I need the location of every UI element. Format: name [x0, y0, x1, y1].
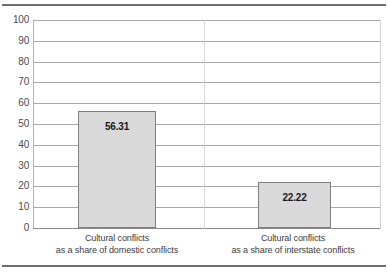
gridline-60 — [33, 103, 380, 104]
gridline-70 — [33, 82, 380, 83]
bar-value-label-1: 22.22 — [259, 192, 330, 203]
y-tick-label-90: 90 — [1, 36, 29, 46]
top-divider-rule — [2, 4, 386, 6]
gridline-0 — [33, 228, 380, 229]
bar-value-label-0: 56.31 — [79, 121, 155, 132]
y-tick-label-50: 50 — [1, 119, 29, 129]
bottom-divider-rule — [2, 265, 386, 267]
gridline-100 — [33, 20, 380, 21]
y-tick-label-40: 40 — [1, 140, 29, 150]
y-tick-label-0: 0 — [1, 223, 29, 233]
y-tick-label-10: 10 — [1, 202, 29, 212]
y-tick-label-100: 100 — [1, 15, 29, 25]
category-label-0-line-1: Cultural conflicts — [32, 233, 202, 245]
gridline-90 — [33, 41, 380, 42]
plot-area: 56.3122.22 — [33, 20, 380, 228]
gridline-80 — [33, 62, 380, 63]
y-tick-label-20: 20 — [1, 181, 29, 191]
y-tick-label-80: 80 — [1, 57, 29, 67]
bar-chart-figure: 1009080706050403020100 56.3122.22 Cultur… — [0, 0, 388, 275]
category-label-1-line-1: Cultural conflicts — [206, 233, 380, 245]
y-tick-label-60: 60 — [1, 98, 29, 108]
category-label-1: Cultural conflictsas a share of intersta… — [206, 233, 380, 256]
category-label-0: Cultural conflictsas a share of domestic… — [32, 233, 202, 256]
category-divider-line — [204, 20, 205, 229]
bar-0: 56.31 — [78, 111, 156, 228]
bar-1: 22.22 — [258, 182, 331, 228]
plot-right-edge — [380, 20, 381, 229]
y-tick-label-30: 30 — [1, 161, 29, 171]
y-axis-tick-labels: 1009080706050403020100 — [0, 20, 29, 228]
category-label-1-line-2: as a share of interstate conflicts — [206, 245, 380, 257]
category-label-0-line-2: as a share of domestic conflicts — [32, 245, 202, 257]
y-tick-label-70: 70 — [1, 77, 29, 87]
